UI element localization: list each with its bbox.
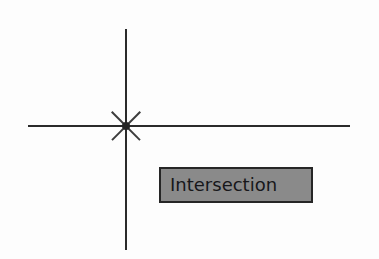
intersection-tooltip: Intersection bbox=[159, 167, 313, 203]
drawing-canvas[interactable]: Intersection bbox=[0, 0, 379, 259]
horizontal-line[interactable] bbox=[28, 125, 350, 127]
tooltip-label: Intersection bbox=[170, 176, 277, 194]
drawing-geometry bbox=[0, 0, 379, 259]
intersection-snap-x-icon[interactable] bbox=[107, 107, 145, 145]
snap-center-dot-icon bbox=[122, 122, 130, 130]
